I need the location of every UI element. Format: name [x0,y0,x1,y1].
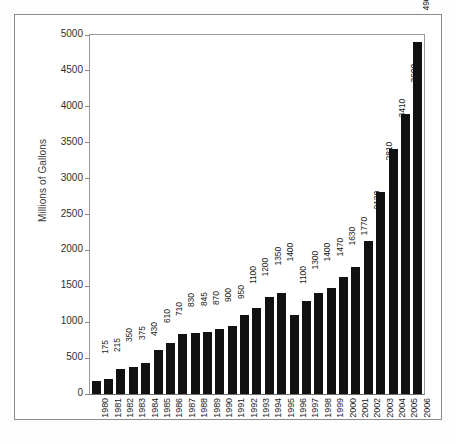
plot-area: 0500100015002000250030003500400045005000… [89,34,425,395]
bar-item[interactable]: 49002006 [412,35,424,394]
bar-item[interactable]: 17702001 [350,35,362,394]
x-axis-tick-label: 1984 [150,398,160,418]
bar-item[interactable]: 16302000 [337,35,349,394]
bar-item[interactable]: 14001998 [313,35,325,394]
y-axis-tick-label: 3000 [61,172,83,183]
bar-rect[interactable] [277,293,286,394]
x-axis-tick-label: 1980 [100,398,110,418]
y-axis-tick-label: 4500 [61,64,83,75]
x-axis-tick-label: 2003 [385,398,395,418]
x-axis-tick-label: 1989 [212,398,222,418]
bar-rect[interactable] [351,267,360,394]
x-axis-tick-label: 1999 [335,398,345,418]
bar-item[interactable]: 8701989 [201,35,213,394]
bar-item[interactable]: 11001992 [238,35,250,394]
bar-item[interactable]: 2151981 [102,35,114,394]
x-axis-tick-label: 1997 [310,398,320,418]
x-axis-tick-label: 2001 [360,398,370,418]
bar-rect[interactable] [203,332,212,394]
y-axis-tick-label: 1500 [61,279,83,290]
bar-item[interactable]: 6101985 [152,35,164,394]
x-axis-tick-label: 1985 [162,398,172,418]
bar-rect[interactable] [240,315,249,394]
y-axis-tick-label: 2000 [61,243,83,254]
bar-rect[interactable] [327,288,336,394]
bar-item[interactable]: 8301987 [177,35,189,394]
x-axis-tick-label: 1987 [187,398,197,418]
bar-rect[interactable] [265,297,274,394]
bar-item[interactable]: 12001993 [251,35,263,394]
bar-item[interactable]: 8451988 [189,35,201,394]
bar-item[interactable]: 13501994 [263,35,275,394]
bar-item[interactable]: 21302002 [362,35,374,394]
bar-rect[interactable] [141,363,150,394]
bar-item[interactable]: 9501991 [226,35,238,394]
bar-rect[interactable] [290,315,299,394]
bar-rect[interactable] [154,350,163,394]
x-axis-tick-label: 2006 [422,398,432,418]
x-axis-tick-label: 2004 [397,398,407,418]
bar-item[interactable]: 14001995 [276,35,288,394]
bar-rect[interactable] [401,114,410,394]
bar-item[interactable]: 1751980 [90,35,102,394]
bar-value-label: 4900 [421,0,431,11]
bar-rect[interactable] [364,241,373,394]
y-axis-tick-label: 1000 [61,315,83,326]
chart-page: Millions of Gallons 05001000150020002500… [0,0,456,444]
x-axis-tick-label: 1992 [249,398,259,418]
y-axis-tick-label: 4000 [61,100,83,111]
bar-item[interactable]: 39002005 [399,35,411,394]
bar-rect[interactable] [314,293,323,394]
bar-rect[interactable] [129,367,138,394]
bar-item[interactable]: 3751983 [127,35,139,394]
bar-series: 1751980215198135019823751983430198461019… [90,35,424,394]
bar-item[interactable]: 4301984 [139,35,151,394]
x-axis-tick-label: 2002 [372,398,382,418]
y-axis-tick-label: 0 [77,387,83,398]
bar-item[interactable]: 3501982 [115,35,127,394]
y-axis-title: Millions of Gallons [37,111,48,251]
bar-rect[interactable] [191,333,200,394]
bar-rect[interactable] [302,301,311,394]
bar-rect[interactable] [252,308,261,394]
x-axis-tick-label: 1990 [224,398,234,418]
x-axis-tick-label: 1991 [236,398,246,418]
bar-item[interactable]: 14701999 [325,35,337,394]
y-axis-tick-label: 2500 [61,208,83,219]
bar-rect[interactable] [166,343,175,394]
x-axis-tick-label: 1982 [125,398,135,418]
x-axis-tick-label: 1998 [323,398,333,418]
x-axis-tick-label: 2000 [348,398,358,418]
x-axis-tick-label: 1996 [298,398,308,418]
bar-item[interactable]: 9001990 [214,35,226,394]
y-axis-tick-label: 3500 [61,136,83,147]
bar-rect[interactable] [178,334,187,394]
x-axis-tick-label: 1981 [113,398,123,418]
x-axis-tick-label: 1995 [286,398,296,418]
y-axis-tick-label: 500 [66,351,83,362]
bar-item[interactable]: 34102004 [387,35,399,394]
x-axis-tick-label: 1994 [273,398,283,418]
bar-item[interactable]: 28102003 [375,35,387,394]
bar-item[interactable]: 7101986 [164,35,176,394]
bar-rect[interactable] [376,192,385,394]
y-axis-tick-label: 5000 [61,28,83,39]
bar-rect[interactable] [413,42,422,394]
x-axis-tick-label: 1993 [261,398,271,418]
bar-rect[interactable] [92,381,101,394]
bar-item[interactable]: 11001996 [288,35,300,394]
x-axis-tick-label: 2005 [409,398,419,418]
x-axis-tick-label: 1986 [174,398,184,418]
bar-rect[interactable] [215,329,224,394]
x-axis-tick-label: 1988 [199,398,209,418]
bar-rect[interactable] [389,149,398,394]
x-axis-tick-label: 1983 [137,398,147,418]
chart-outer-frame: Millions of Gallons 05001000150020002500… [14,14,442,420]
bar-rect[interactable] [339,277,348,394]
bar-rect[interactable] [228,326,237,394]
bar-rect[interactable] [104,379,113,394]
bar-rect[interactable] [116,369,125,394]
bar-item[interactable]: 13001997 [300,35,312,394]
